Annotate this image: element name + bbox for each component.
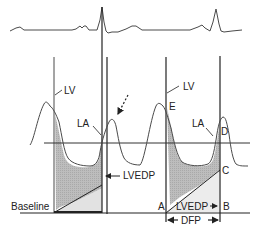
label-lv-right: LV [183,81,195,92]
label-point-c: C [222,165,229,176]
pressure-diagram: LV LA LVEDP Baseline LV LA E D C A B LVE… [0,0,263,236]
lv-waveform-left [30,102,140,166]
label-la-left: LA [77,118,90,129]
label-baseline: Baseline [11,201,50,212]
label-point-a: A [158,201,165,212]
lv-left-leader [55,90,62,95]
la-left-leader [93,126,101,135]
ecg-trace [10,7,242,33]
label-point-b: B [223,201,230,212]
label-point-e: E [169,101,176,112]
label-dfp: DFP [181,215,201,226]
label-lv-left: LV [64,85,76,96]
lv-right-leader [167,86,179,93]
lv-waveform-right [140,103,248,166]
label-lvedp-left: LVEDP [123,170,155,181]
label-la-right: LA [192,118,205,129]
la-right-leader [206,128,213,136]
dashed-arrow [118,95,128,114]
label-point-d: D [221,126,228,137]
label-lvedp-right: LVEDP [176,201,208,212]
